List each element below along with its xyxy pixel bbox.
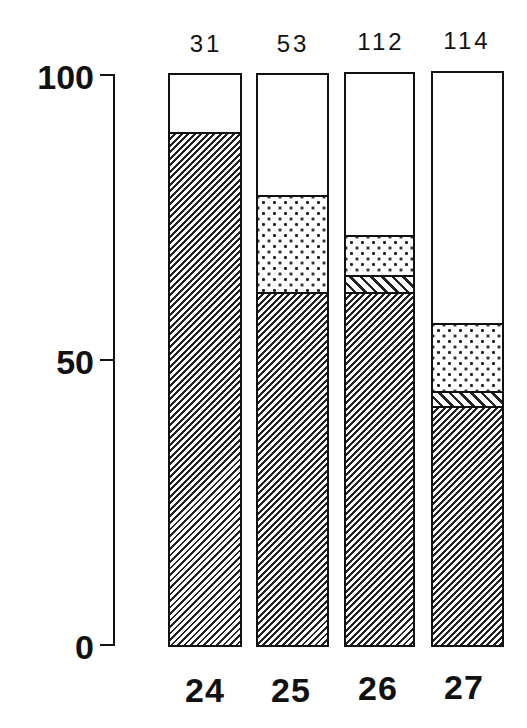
bar-segment-hatch (433, 406, 502, 645)
bar-segment-dots (346, 235, 413, 275)
bar-segment-rhatch (346, 275, 413, 292)
bar-24 (168, 73, 242, 647)
bar-27 (431, 71, 504, 647)
x-category-label: 25 (246, 673, 336, 707)
bar-segment-hatch (170, 132, 240, 645)
bar-segment-dots (258, 195, 327, 292)
bar-segment-hatch (346, 292, 413, 645)
y-tick-50 (100, 359, 114, 361)
bar-count-label: 31 (161, 32, 251, 56)
bar-segment-rhatch (433, 391, 502, 405)
bar-segment-dots (433, 323, 502, 391)
y-tick-label-100: 100 (4, 60, 94, 94)
y-tick-label-50: 50 (4, 345, 94, 379)
bar-count-label: 112 (336, 30, 426, 54)
bar-segment-hatch (258, 292, 327, 645)
y-tick-100 (100, 74, 114, 76)
y-tick-0 (100, 644, 114, 646)
bar-26 (344, 72, 415, 647)
stacked-bar-chart: 100 50 0 31 53 112 114 24 25 26 27 (0, 0, 527, 728)
bar-25 (256, 73, 329, 647)
bar-count-label: 114 (422, 29, 512, 53)
bar-count-label: 53 (248, 32, 338, 56)
x-category-label: 26 (333, 671, 423, 705)
x-category-label: 27 (419, 670, 509, 704)
x-category-label: 24 (160, 673, 250, 707)
y-tick-label-0: 0 (4, 630, 94, 664)
